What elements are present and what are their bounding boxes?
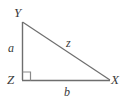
vertex-label-y: Y bbox=[14, 6, 21, 19]
right-triangle-diagram: Y Z X a b z bbox=[0, 0, 127, 101]
vertex-label-z: Z bbox=[7, 73, 14, 86]
vertex-label-x: X bbox=[111, 73, 119, 86]
right-angle-marker-icon bbox=[23, 72, 31, 81]
segment-z-hypotenuse bbox=[23, 22, 111, 80]
side-label-b: b bbox=[64, 86, 70, 98]
side-label-a: a bbox=[8, 42, 14, 54]
side-label-z: z bbox=[66, 37, 71, 49]
